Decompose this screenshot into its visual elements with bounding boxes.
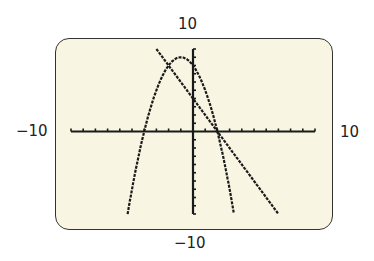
xmax-label: 10 (340, 125, 359, 140)
ymin-label: −10 (174, 236, 206, 251)
graph-plot (0, 0, 374, 261)
xmin-label: −10 (16, 124, 48, 139)
ymax-label: 10 (178, 17, 197, 32)
